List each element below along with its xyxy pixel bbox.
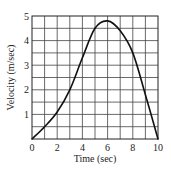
x-axis-title: Time (sec) <box>74 153 117 165</box>
velocity-time-chart: 0246810 12345 Time (sec) Velocity (m/sec… <box>0 0 171 170</box>
x-tick-label: 10 <box>153 142 163 153</box>
y-tick-label: 5 <box>24 11 29 22</box>
y-tick-labels: 12345 <box>24 11 29 120</box>
y-tick-label: 2 <box>24 84 29 95</box>
y-tick-label: 3 <box>24 60 29 71</box>
x-tick-label: 0 <box>30 142 35 153</box>
y-axis-title: Velocity (m/sec) <box>5 45 17 111</box>
y-tick-label: 1 <box>24 109 29 120</box>
x-tick-labels: 0246810 <box>30 142 164 153</box>
x-tick-label: 6 <box>105 142 110 153</box>
y-tick-label: 4 <box>24 35 29 46</box>
x-tick-label: 4 <box>80 142 85 153</box>
x-tick-label: 2 <box>55 142 60 153</box>
x-tick-label: 8 <box>130 142 135 153</box>
